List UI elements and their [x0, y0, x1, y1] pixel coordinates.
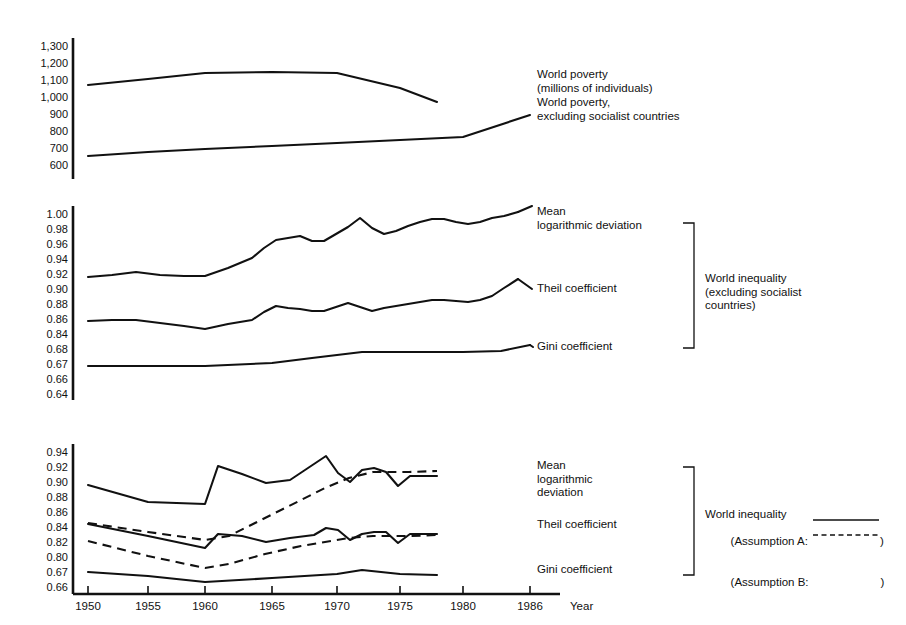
group-brace — [683, 467, 694, 575]
figure-root: 1,300 1,200 1,100 1,000 900 800 700 600 … — [0, 0, 906, 625]
x-axis-title: Year — [570, 600, 620, 612]
series-gini-assumptions — [88, 570, 437, 582]
x-tick-label: 1980 — [433, 600, 493, 612]
assumption-a-paren: ) — [880, 535, 884, 547]
series-theil-assumption-b — [88, 535, 437, 568]
brace-label-line-1: World inequality — [705, 508, 884, 522]
x-tick-label: 1950 — [58, 600, 118, 612]
series-mld-assumption-a — [88, 456, 437, 504]
mean-log-deviation-label: Mean logarithmic deviation — [537, 459, 593, 500]
gini-coefficient-label: Gini coefficient — [537, 563, 612, 577]
x-tick-label: 1986 — [500, 600, 560, 612]
assumption-b-text: (Assumption B: — [731, 576, 809, 588]
x-tick-label: 1975 — [370, 600, 430, 612]
assumption-b-paren: ) — [881, 576, 885, 588]
theil-coefficient-label: Theil coefficient — [537, 518, 617, 532]
assumption-a-text: (Assumption A: — [731, 535, 808, 547]
x-tick-label: 1955 — [118, 600, 178, 612]
x-tick-label: 1965 — [242, 600, 302, 612]
assumptions-brace-label: World inequality (Assumption A:) (Assump… — [705, 508, 884, 603]
brace-label-line-2: (Assumption A:) — [705, 522, 884, 563]
x-tick-label: 1970 — [307, 600, 367, 612]
x-tick-label: 1960 — [175, 600, 235, 612]
brace-label-line-3: (Assumption B:) — [705, 562, 884, 603]
